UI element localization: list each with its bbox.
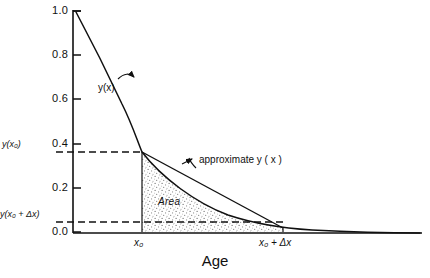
curve-label-leader-arrow bbox=[118, 74, 134, 79]
approximation-label: approximate y ( x ) bbox=[199, 154, 282, 165]
y-tick-label-3: 0.6 bbox=[28, 92, 68, 104]
curve-y-of-x bbox=[76, 12, 420, 233]
area-label: Area bbox=[158, 196, 180, 207]
curve-label-y-of-x: y(x) bbox=[98, 82, 115, 93]
x-tick-label-x0-plus-dx: x₀ + Δx bbox=[259, 237, 291, 248]
y-tick-label-1: 1.0 bbox=[28, 4, 68, 16]
y-axis-ticks bbox=[73, 11, 81, 232]
y-tick-label-2: 0.8 bbox=[28, 48, 68, 60]
x-axis-title: Age bbox=[0, 252, 430, 269]
x-tick-label-x0: x₀ bbox=[134, 237, 143, 248]
chart-figure: 1.0 0.8 0.6 0.4 0.2 0.0 y(x₀) y(x₀ + Δx)… bbox=[0, 0, 430, 278]
approximation-label-leader-arrow bbox=[182, 158, 196, 168]
y-tick-label-6: 0.0 bbox=[28, 225, 68, 237]
y-tick-label-4: 0.4 bbox=[28, 137, 68, 149]
y-value-label-at-x0: y(x₀) bbox=[2, 139, 21, 149]
y-value-label-at-x0-plus-dx: y(x₀ + Δx) bbox=[0, 209, 40, 219]
y-tick-label-5: 0.2 bbox=[28, 181, 68, 193]
